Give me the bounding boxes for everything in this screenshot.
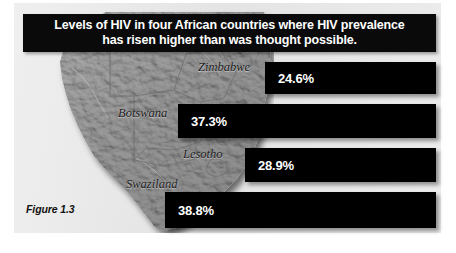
bar-value-zimbabwe: 24.6% <box>265 71 314 86</box>
bar-zimbabwe: 24.6% <box>265 62 436 94</box>
figure-title-line-1: Levels of HIV in four African countries … <box>54 18 404 32</box>
map-label-lesotho: Lesotho <box>183 147 223 162</box>
bar-lesotho: 28.9% <box>245 148 436 182</box>
map-label-swaziland: Swaziland <box>126 177 177 192</box>
bar-value-botswana: 37.3% <box>178 114 227 129</box>
map-label-zimbabwe: Zimbabwe <box>198 60 250 75</box>
figure-title: Levels of HIV in four African countries … <box>48 18 410 48</box>
bar-swaziland: 38.8% <box>165 192 436 228</box>
bar-value-swaziland: 38.8% <box>165 203 214 218</box>
bar-value-lesotho: 28.9% <box>245 158 294 173</box>
figure-title-banner: Levels of HIV in four African countries … <box>23 14 436 52</box>
map-label-botswana: Botswana <box>118 106 167 121</box>
figure-container: Levels of HIV in four African countries … <box>0 0 456 253</box>
bar-botswana: 37.3% <box>178 104 436 138</box>
figure-title-line-2: has risen higher than was thought possib… <box>102 33 357 47</box>
figure-caption: Figure 1.3 <box>26 203 75 215</box>
